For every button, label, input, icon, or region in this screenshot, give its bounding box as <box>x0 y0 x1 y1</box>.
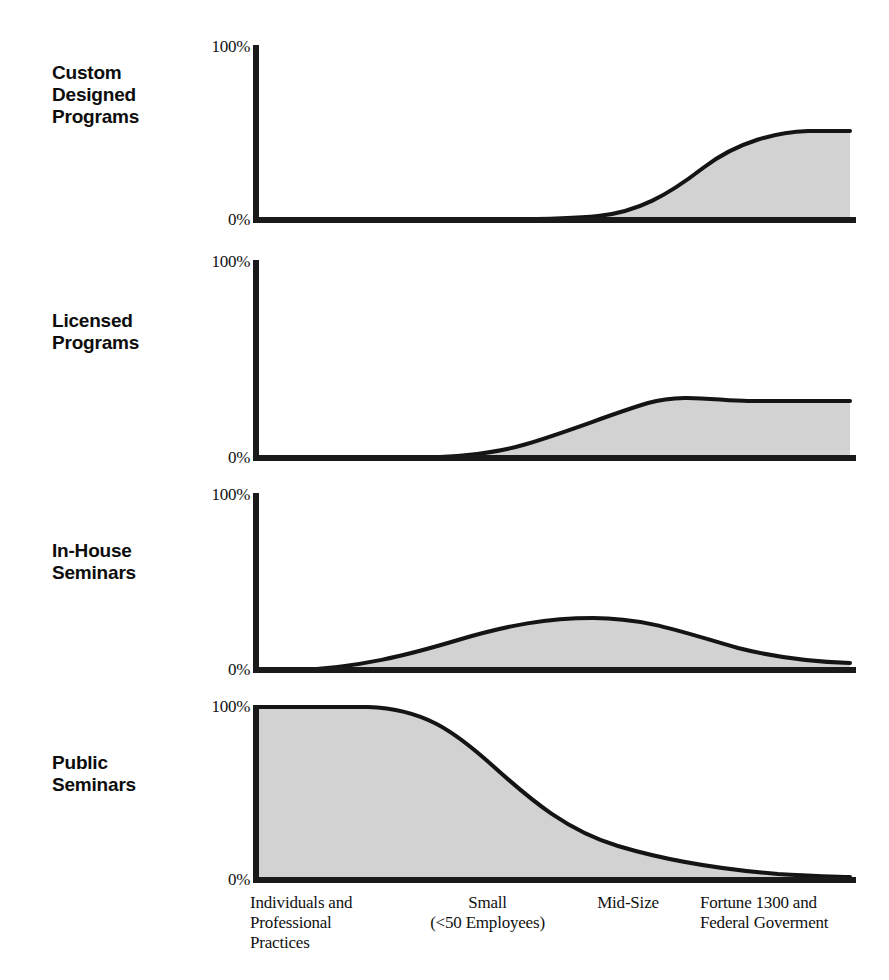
panel-label-line: Seminars <box>52 562 232 584</box>
y-axis-tick-top-panel-3: 100% <box>192 485 250 505</box>
y-axis-tick-bottom-panel-1: 0% <box>192 210 250 230</box>
panel-label-line: Programs <box>52 106 232 128</box>
y-axis-tick-top-panel-2: 100% <box>192 252 250 272</box>
plot-area-in-house-seminars <box>248 488 860 684</box>
x-axis-label-line: Small <box>415 893 560 913</box>
panel-label-line: Designed <box>52 84 232 106</box>
panel-label-in-house-seminars: In-House Seminars <box>52 540 232 584</box>
chart-figure: Custom Designed Programs 100% 0% License… <box>0 0 889 980</box>
x-axis-label-line: (<50 Employees) <box>415 913 560 933</box>
y-axis-tick-bottom-panel-4: 0% <box>192 870 250 890</box>
panel-label-line: Seminars <box>52 774 232 796</box>
x-axis-label-line: Practices <box>250 933 400 953</box>
x-axis-label-individuals-and-professional-practices: Individuals and Professional Practices <box>250 893 400 953</box>
area-fill-licensed-programs <box>256 398 850 458</box>
panel-label-line: Custom <box>52 62 232 84</box>
panel-label-line: Licensed <box>52 310 232 332</box>
panel-label-public-seminars: Public Seminars <box>52 752 232 796</box>
plot-area-licensed-programs <box>248 255 860 471</box>
x-axis-label-line: Fortune 1300 and <box>700 893 880 913</box>
y-axis-tick-top-panel-4: 100% <box>192 697 250 717</box>
x-axis-label-small: Small (<50 Employees) <box>415 893 560 933</box>
panel-label-line: In-House <box>52 540 232 562</box>
x-axis-label-line: Professional <box>250 913 400 933</box>
area-fill-public-seminars <box>256 707 850 880</box>
y-axis-tick-bottom-panel-2: 0% <box>192 448 250 468</box>
x-axis-label-mid-size: Mid-Size <box>578 893 678 913</box>
y-axis-tick-top-panel-1: 100% <box>192 37 250 57</box>
y-axis-tick-bottom-panel-3: 0% <box>192 660 250 680</box>
plot-area-custom-designed-programs <box>248 40 860 234</box>
x-axis-label-line: Federal Goverment <box>700 913 880 933</box>
area-fill-custom-designed-programs <box>256 131 850 220</box>
area-fill-in-house-seminars <box>256 618 850 670</box>
x-axis-label-line: Mid-Size <box>578 893 678 913</box>
panel-label-licensed-programs: Licensed Programs <box>52 310 232 354</box>
plot-area-public-seminars <box>248 700 860 894</box>
x-axis-label-line: Individuals and <box>250 893 400 913</box>
panel-label-line: Public <box>52 752 232 774</box>
panel-label-custom-designed-programs: Custom Designed Programs <box>52 62 232 128</box>
panel-label-line: Programs <box>52 332 232 354</box>
x-axis-label-fortune-1300-and-federal-goverment: Fortune 1300 and Federal Goverment <box>700 893 880 933</box>
